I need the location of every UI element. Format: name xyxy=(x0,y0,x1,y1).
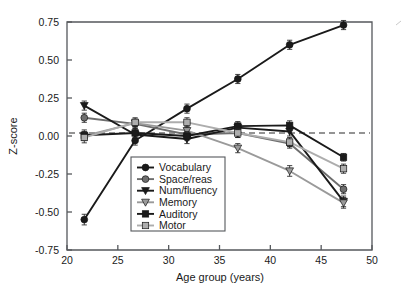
x-tick-label: 30 xyxy=(163,254,175,266)
z-score-by-age-line-chart: -0.75-0.50-0.250.000.250.500.75 20253035… xyxy=(0,0,408,290)
legend-item-label: Num/fluency xyxy=(159,184,218,196)
data-point-marker xyxy=(184,105,191,112)
data-point-marker xyxy=(81,216,88,223)
data-point-marker xyxy=(286,122,292,128)
y-tick-label: -0.50 xyxy=(35,206,59,218)
data-point-marker xyxy=(340,165,346,171)
figure-container: -0.75-0.50-0.250.000.250.500.75 20253035… xyxy=(0,0,408,290)
data-point-marker xyxy=(142,211,148,217)
y-axis-title: Z-score xyxy=(7,117,19,154)
x-tick-label: 50 xyxy=(366,254,378,266)
x-tick-label: 40 xyxy=(264,254,276,266)
chart-legend: VocabularySpace/reasNum/fluencyMemoryAud… xyxy=(131,157,225,231)
y-tick-label: 0.75 xyxy=(39,16,60,28)
data-point-marker xyxy=(286,139,292,145)
data-point-marker xyxy=(81,134,87,140)
y-tick-label: -0.75 xyxy=(35,244,59,256)
data-point-marker xyxy=(81,114,88,121)
x-tick-label: 35 xyxy=(214,254,226,266)
data-point-marker xyxy=(142,176,149,183)
x-tick-label: 20 xyxy=(61,254,73,266)
data-point-marker xyxy=(132,130,138,136)
legend-item-label: Memory xyxy=(159,196,198,208)
legend-item-label: Motor xyxy=(159,219,186,231)
y-tick-label: 0.25 xyxy=(39,92,60,104)
data-point-marker xyxy=(132,119,138,125)
chart-background xyxy=(0,0,408,290)
data-point-marker xyxy=(184,119,190,125)
legend-item-label: Vocabulary xyxy=(159,161,212,173)
data-point-marker xyxy=(340,22,347,29)
data-point-marker xyxy=(142,164,149,171)
x-tick-label: 45 xyxy=(315,254,327,266)
data-point-marker xyxy=(235,130,241,136)
data-point-marker xyxy=(340,186,347,193)
x-tick-label: 25 xyxy=(112,254,124,266)
data-point-marker xyxy=(234,76,241,83)
data-point-marker xyxy=(142,222,148,228)
data-point-marker xyxy=(340,154,346,160)
legend-item-label: Space/reas xyxy=(159,173,212,185)
y-tick-label: 0.00 xyxy=(39,130,60,142)
legend-item-label: Auditory xyxy=(159,208,198,220)
data-point-marker xyxy=(286,41,293,48)
x-axis-title: Age group (years) xyxy=(176,271,264,283)
y-tick-label: 0.50 xyxy=(39,54,60,66)
data-point-marker xyxy=(184,133,190,139)
y-tick-label: -0.25 xyxy=(35,168,59,180)
